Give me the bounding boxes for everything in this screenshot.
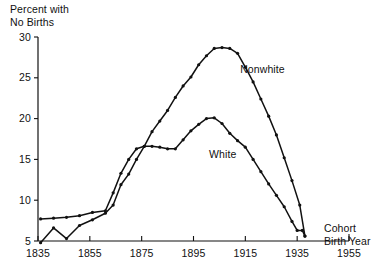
data-point-marker [150, 130, 153, 133]
data-point-marker [290, 179, 293, 182]
data-point-marker [290, 220, 293, 223]
data-point-marker [244, 146, 247, 149]
data-point-marker [91, 211, 94, 214]
data-point-marker [197, 63, 200, 66]
data-point-marker [259, 97, 262, 100]
y-tick-label: 20 [0, 112, 31, 124]
y-tick-label: 10 [0, 194, 31, 206]
data-point-marker [127, 158, 130, 161]
data-point-marker [127, 172, 130, 175]
data-point-marker [39, 217, 42, 220]
x-tick-label: 1955 [329, 247, 369, 259]
x-tick-label: 1855 [70, 247, 110, 259]
plot-area [0, 0, 390, 268]
data-point-marker [296, 229, 299, 232]
series-line [41, 48, 305, 243]
data-point-marker [228, 47, 231, 50]
data-point-marker [213, 116, 216, 119]
data-point-marker [189, 75, 192, 78]
y-tick-label: 25 [0, 71, 31, 83]
data-point-marker [259, 170, 262, 173]
data-point-marker [205, 117, 208, 120]
data-point-marker [267, 115, 270, 118]
x-tick-label: 1895 [174, 247, 214, 259]
series-annotation-nonwhite: Nonwhite [240, 63, 285, 75]
data-point-marker [298, 204, 301, 207]
y-tick-label: 5 [0, 235, 31, 247]
x-tick-label: 1915 [225, 247, 265, 259]
data-point-marker [65, 237, 68, 240]
data-point-marker [275, 133, 278, 136]
data-point-marker [78, 214, 81, 217]
data-point-marker [267, 182, 270, 185]
data-series-layer [39, 46, 307, 244]
x-tick-label: 1935 [277, 247, 317, 259]
data-point-marker [301, 229, 304, 232]
data-point-marker [252, 80, 255, 83]
data-point-marker [189, 129, 192, 132]
data-point-marker [205, 54, 208, 57]
y-tick-label: 30 [0, 31, 31, 43]
data-point-marker [135, 147, 138, 150]
data-point-marker [236, 52, 239, 55]
data-point-marker [174, 147, 177, 150]
data-point-marker [236, 139, 239, 142]
chart-container: Percent withNo Births CohortBirth Year 5… [0, 0, 390, 268]
data-point-marker [213, 47, 216, 50]
data-point-marker [220, 122, 223, 125]
data-point-marker [135, 158, 138, 161]
data-point-marker [91, 218, 94, 221]
data-point-marker [283, 156, 286, 159]
data-point-marker [182, 84, 185, 87]
data-point-marker [197, 123, 200, 126]
data-point-marker [78, 224, 81, 227]
axes [38, 37, 349, 241]
data-point-marker [283, 205, 286, 208]
data-point-marker [303, 235, 306, 238]
data-point-marker [220, 46, 223, 49]
data-point-marker [112, 191, 115, 194]
axis-ticks [34, 37, 349, 241]
data-point-marker [252, 158, 255, 161]
data-point-marker [166, 147, 169, 150]
series-white [39, 116, 307, 238]
data-point-marker [52, 226, 55, 229]
data-point-marker [158, 146, 161, 149]
data-point-marker [119, 183, 122, 186]
data-point-marker [39, 241, 42, 244]
data-point-marker [65, 216, 68, 219]
data-point-marker [182, 138, 185, 141]
data-point-marker [158, 119, 161, 122]
data-point-marker [119, 172, 122, 175]
data-point-marker [143, 145, 146, 148]
series-annotation-white: White [209, 148, 236, 160]
data-point-marker [228, 132, 231, 135]
data-point-marker [112, 204, 115, 207]
data-point-marker [104, 209, 107, 212]
x-tick-label: 1875 [122, 247, 162, 259]
data-point-marker [174, 96, 177, 99]
data-point-marker [150, 145, 153, 148]
y-tick-label: 15 [0, 153, 31, 165]
series-line [41, 118, 305, 236]
data-point-marker [166, 109, 169, 112]
data-point-marker [275, 194, 278, 197]
data-point-marker [52, 217, 55, 220]
x-tick-label: 1835 [18, 247, 58, 259]
